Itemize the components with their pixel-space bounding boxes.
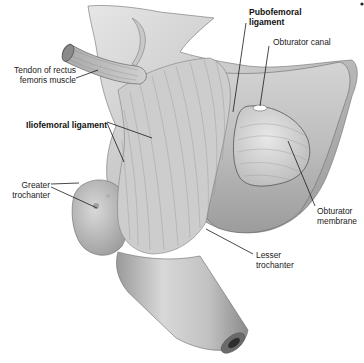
hip-joint-illustration: [0, 0, 364, 363]
label-obturator-membrane: Obturator membrane: [317, 206, 357, 226]
trochanter-spot: [93, 203, 99, 209]
label-greater-trochanter: Greater trochanter: [6, 180, 50, 200]
label-lesser-trochanter: Lesser trochanter: [256, 250, 294, 270]
trochanter-spot: [106, 194, 110, 198]
label-iliofemoral-ligament: Iliofemoral ligament: [26, 120, 107, 130]
hip-ligament-figure: Pubofemoral ligament Obturator canal Ten…: [0, 0, 364, 363]
corner-marker-dot: [360, 2, 363, 5]
label-tendon-rectus-femoris: Tendon of rectus femoris muscle: [4, 65, 76, 85]
leader-greater-trochanter-a: [51, 183, 79, 184]
femoral-shaft: [116, 252, 248, 350]
label-obturator-canal: Obturator canal: [273, 37, 331, 47]
label-pubofemoral-ligament: Pubofemoral ligament: [249, 7, 302, 27]
